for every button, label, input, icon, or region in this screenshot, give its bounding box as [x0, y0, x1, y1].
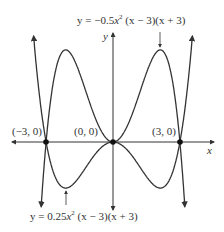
- x-axis-label: x: [207, 145, 212, 156]
- point-label-origin: (0, 0): [74, 126, 98, 137]
- point-origin: [110, 139, 116, 145]
- point-neg3: [43, 139, 49, 145]
- point-3: [177, 139, 183, 145]
- y-axis-label: y: [103, 31, 108, 42]
- bottom-equation-label: y = 0.25x2 (x − 3)(x + 3): [30, 210, 138, 222]
- top-equation-label: y = −0.5x2 (x − 3)(x + 3): [77, 14, 185, 26]
- point-label-neg3: (−3, 0): [12, 126, 42, 137]
- point-label-3: (3, 0): [152, 126, 176, 137]
- graph-canvas: [0, 0, 224, 232]
